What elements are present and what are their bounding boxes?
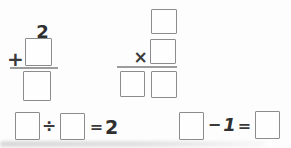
division-quotient: 2 [101, 116, 122, 138]
equals-icon: = [234, 115, 255, 136]
addition-sum-answer-box[interactable] [23, 71, 51, 101]
multiplication-product-tens-box[interactable] [120, 71, 145, 97]
addition-equals-line [10, 67, 58, 69]
division-divisor-box[interactable] [60, 113, 85, 140]
multiplication-product-ones-box[interactable] [151, 71, 177, 98]
multiplication-multiplier-box[interactable] [150, 39, 176, 64]
scan-shadow [0, 141, 265, 147]
division-dividend-box[interactable] [15, 112, 40, 140]
multiplication-multiplicand-box[interactable] [151, 9, 177, 34]
multiplication-equals-line [117, 66, 177, 68]
subtraction-difference-box[interactable] [255, 111, 280, 139]
addition-addend-answer-box[interactable] [25, 38, 52, 66]
subtraction-minuend-box[interactable] [179, 112, 204, 140]
math-worksheet: 2 + × ÷ = 2 − 1 = [0, 0, 291, 148]
divide-icon: ÷ [39, 116, 59, 137]
times-icon: × [130, 47, 151, 68]
